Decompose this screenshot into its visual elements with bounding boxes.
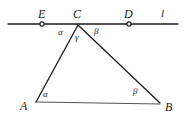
point-label-C: C bbox=[73, 8, 81, 20]
point-label-B: B bbox=[165, 101, 172, 113]
angle-label-beta-at-c: β bbox=[94, 27, 98, 36]
angle-label-gamma-at-c: γ bbox=[75, 33, 79, 42]
segment-CB bbox=[78, 25, 160, 103]
angle-label-alpha-at-c: α bbox=[58, 28, 63, 37]
point-marker-E bbox=[40, 22, 44, 26]
angle-label-alpha-at-a: α bbox=[43, 90, 48, 99]
angle-label-beta-at-b: β bbox=[133, 87, 137, 96]
point-label-A: A bbox=[20, 100, 27, 112]
line-label-l: l bbox=[161, 8, 164, 19]
segment-AB bbox=[36, 102, 160, 104]
point-label-D: D bbox=[124, 8, 133, 20]
point-label-E: E bbox=[38, 8, 45, 20]
point-marker-D bbox=[127, 22, 131, 26]
geometry-figure: E C D l A B α β γ α β bbox=[0, 0, 189, 123]
